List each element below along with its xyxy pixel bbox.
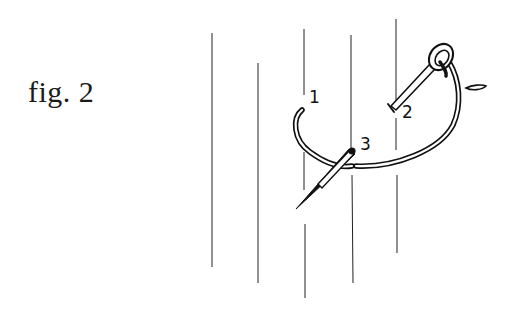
label-point-3: 3 xyxy=(360,134,371,154)
thread-loop xyxy=(296,62,486,166)
label-point-1: 1 xyxy=(309,87,320,107)
fabric-lines xyxy=(212,19,397,298)
needle-icon xyxy=(296,147,356,209)
figure-canvas: fig. 2 xyxy=(0,0,509,317)
fabric-line-4b xyxy=(352,175,353,283)
label-point-2: 2 xyxy=(402,102,413,122)
stitch-diagram: 1 2 3 xyxy=(0,0,509,317)
point-3-dot xyxy=(348,147,355,154)
needle-upper xyxy=(388,39,458,112)
